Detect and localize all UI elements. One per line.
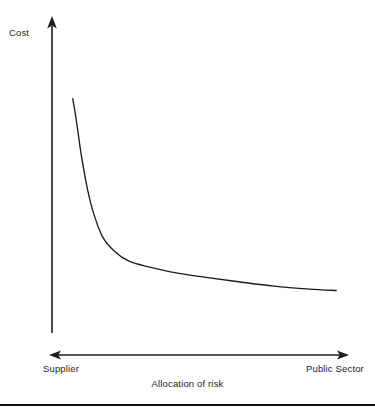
x-axis-label: Allocation of risk <box>0 378 375 389</box>
figure-root: Cost Supplier Public Sector Allocation o… <box>0 0 375 412</box>
y-axis-label: Cost <box>9 27 29 38</box>
x-axis-right-tick-label: Public Sector <box>306 363 364 374</box>
page-bottom-rule <box>0 404 375 406</box>
x-axis-left-tick-label: Supplier <box>43 363 79 374</box>
cost-curve <box>73 99 336 291</box>
chart-canvas <box>0 0 375 412</box>
